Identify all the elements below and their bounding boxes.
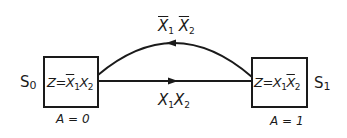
- transition-label-s1-to-s0: X1 X2: [158, 19, 195, 36]
- term-var: X: [286, 75, 294, 90]
- term-var: X: [174, 91, 184, 109]
- term-sub: 2: [189, 26, 195, 36]
- term-var: X: [66, 75, 74, 90]
- output-equation-s0: Z=X1X2: [47, 76, 93, 92]
- state-name-s1: S1: [314, 76, 331, 92]
- term-sub: 2: [184, 100, 190, 110]
- state-assignment-s1: A = 1: [270, 115, 304, 127]
- arrow-right-icon: [168, 78, 178, 85]
- state-name-sub: 0: [30, 79, 37, 92]
- arrow-left-icon: [166, 40, 176, 47]
- state-name-base: S: [314, 74, 324, 92]
- term-sub: 2: [295, 82, 300, 92]
- state-name-s0: S0: [20, 75, 37, 91]
- transition-label-s0-to-s1: X1X2: [158, 93, 190, 110]
- equals-sign: =: [262, 75, 272, 90]
- term-var: X: [79, 75, 87, 90]
- equals-sign: =: [55, 75, 65, 90]
- term-sub: 2: [88, 82, 93, 92]
- term-sub: 1: [168, 26, 174, 36]
- term-var: X: [158, 17, 168, 35]
- transition-arc-s1-to-s0: [98, 43, 252, 77]
- term-var: X: [273, 75, 281, 90]
- term-var: X: [158, 91, 168, 109]
- state-name-sub: 1: [324, 80, 331, 93]
- state-assignment-s0: A = 0: [56, 113, 90, 125]
- state-name-base: S: [20, 73, 30, 91]
- output-equation-s1: Z=X1X2: [254, 76, 300, 92]
- term-var: X: [179, 17, 189, 35]
